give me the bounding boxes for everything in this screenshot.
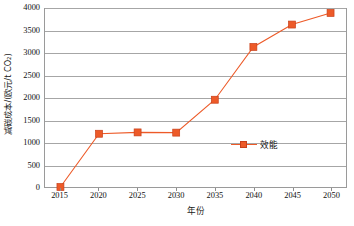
series-line [60,13,330,187]
x-tick-label: 2035 [195,191,235,200]
data-point-marker[interactable] [173,129,180,136]
y-tick-label: 3000 [12,49,40,57]
series-plot [45,8,346,187]
x-tick-label: 2040 [234,191,274,200]
x-tick-label: 2030 [156,191,196,200]
x-tick-label: 2015 [40,191,80,200]
data-point-marker[interactable] [327,9,334,16]
data-point-marker[interactable] [96,130,103,137]
y-tick-label: 500 [12,162,40,170]
x-tickmark [98,188,99,191]
data-point-marker[interactable] [211,96,218,103]
y-axis-tick-labels: 05001000150020002500300035004000 [12,0,42,188]
data-point-marker[interactable] [288,21,295,28]
x-tickmark [137,188,138,191]
y-tick-label: 1500 [12,117,40,125]
legend-line-swatch [231,140,257,149]
y-tick-label: 4000 [12,4,40,12]
y-tick-label: 1000 [12,139,40,147]
legend[interactable]: 效能 [228,136,281,152]
x-tick-label: 2045 [273,191,313,200]
legend-item-label: 效能 [260,138,278,150]
x-tickmark [176,188,177,191]
x-tick-label: 2020 [78,191,118,200]
x-tick-label: 2025 [117,191,157,200]
x-tickmark [215,188,216,191]
data-point-marker[interactable] [250,43,257,50]
x-tickmark [60,188,61,191]
y-tick-label: 3500 [12,27,40,35]
y-tick-label: 2000 [12,94,40,102]
x-tickmark [254,188,255,191]
x-axis-tick-labels: 20152020202520302035204020452050 [44,191,347,205]
x-tickmark [293,188,294,191]
plot-area [44,8,347,188]
y-tick-label: 0 [12,184,40,192]
chart-container: 减碳成本/(欧元/t CO₂) 050010001500200025003000… [0,0,354,226]
data-point-marker[interactable] [134,129,141,136]
y-tick-label: 2500 [12,72,40,80]
x-tickmark [331,188,332,191]
x-axis-title: 年份 [44,204,347,216]
legend-marker-square [240,141,247,148]
x-tick-label: 2050 [311,191,351,200]
